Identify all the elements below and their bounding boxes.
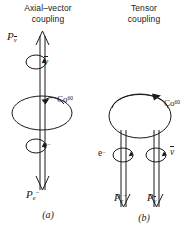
label-nucleus-co60-mass-number: 60 xyxy=(175,99,181,105)
nuclear-spin-curve xyxy=(112,95,168,109)
panel-axial-vector: Axial–vector coupling xyxy=(0,0,96,230)
label-nucleus-co60-element: Co xyxy=(57,94,68,104)
panel-b-caption: (b) xyxy=(96,212,192,223)
label-momentum-antineutrino-subscript: ν xyxy=(14,36,17,43)
up-arrowhead xyxy=(36,31,49,45)
label-spin-electron-charge: − xyxy=(102,149,105,155)
nucleus-leader-arrowhead xyxy=(42,99,50,105)
label-momentum-antineutrino-subscript: ν xyxy=(153,197,156,204)
beta-decay-coupling-figure: Axial–vector coupling xyxy=(0,0,192,230)
label-momentum-antineutrino: Pν xyxy=(7,30,17,43)
label-momentum-antineutrino-symbol: P xyxy=(7,30,14,42)
label-momentum-electron-charge: − xyxy=(123,192,127,199)
label-momentum-electron: Pe− xyxy=(114,192,127,204)
panel-a-caption: (a) xyxy=(0,209,96,220)
label-spin-antineutrino-symbol: ν xyxy=(170,147,174,157)
label-momentum-electron-symbol: P xyxy=(26,188,33,200)
label-nucleus-co60-mass-number: 60 xyxy=(68,95,74,101)
label-nucleus-co60-element: Co xyxy=(164,98,175,108)
label-momentum-antineutrino: Pν xyxy=(147,192,156,204)
panel-tensor: Tensor coupling xyxy=(96,0,192,230)
label-nucleus-co60: Co60 xyxy=(57,94,73,104)
label-spin-electron: e− xyxy=(98,148,106,158)
label-momentum-electron: Pe− xyxy=(26,188,40,201)
label-momentum-electron-charge: − xyxy=(36,189,40,196)
label-spin-electron: e− xyxy=(43,140,51,150)
nucleus-ellipse-co60 xyxy=(109,94,171,138)
label-spin-antineutrino: ν xyxy=(170,147,174,157)
label-spin-electron-charge: − xyxy=(47,141,50,147)
label-spin-antineutrino-symbol: ν xyxy=(44,57,48,67)
label-spin-antineutrino: ν xyxy=(44,57,48,67)
panel-b-drawing xyxy=(96,0,192,230)
label-nucleus-co60: Co60 xyxy=(164,98,180,108)
